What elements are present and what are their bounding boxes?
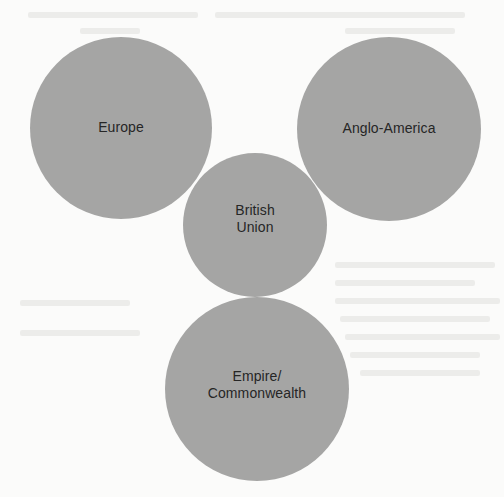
circle-label-anglo-america: Anglo-America xyxy=(342,120,435,137)
circle-empire-commonwealth: Empire/ Commonwealth xyxy=(165,297,349,481)
circle-anglo-america: Anglo-America xyxy=(297,37,481,221)
circle-europe: Europe xyxy=(30,37,212,219)
circle-label-british-union: British Union xyxy=(235,202,275,236)
circle-label-empire-commonwealth: Empire/ Commonwealth xyxy=(208,368,306,402)
circle-label-europe: Europe xyxy=(98,119,144,136)
circle-british-union: British Union xyxy=(183,153,327,297)
